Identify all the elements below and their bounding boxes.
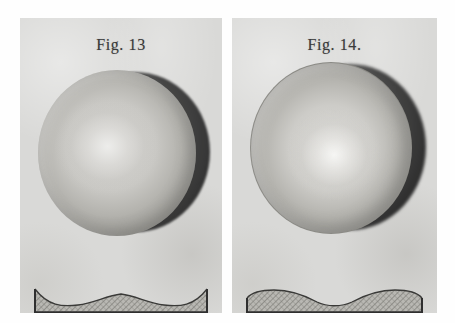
profile-drawing-14 [244,276,425,313]
sphere-illustration-13 [36,66,208,241]
cross-section-profile-13 [32,276,210,313]
figure-panel-13: Fig. 13 [20,18,222,313]
sphere-illustration-14 [246,60,426,242]
lit-sphere-14 [250,62,412,234]
figure-label-13: Fig. 13 [20,36,222,54]
figure-label-14: Fig. 14. [232,36,437,54]
lit-sphere-13 [38,70,196,236]
profile-drawing-13 [32,276,210,313]
cross-section-profile-14 [244,276,425,313]
plate-sheet: Fig. 13 [0,0,455,323]
figure-panel-14: Fig. 14. [232,18,437,313]
